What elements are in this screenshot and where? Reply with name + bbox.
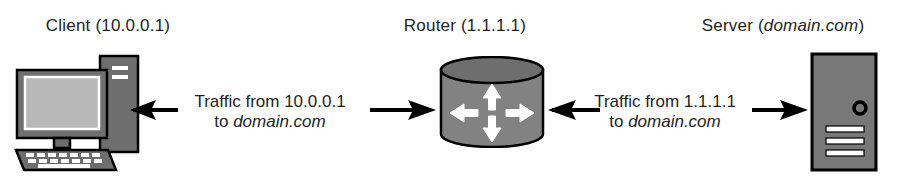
arrow-to-router-right [548,100,600,120]
arrow-to-router-left [370,100,436,120]
arrow-to-client [130,100,178,120]
arrow-connectors [0,0,905,180]
arrow-to-server [752,100,808,120]
network-diagram: Client (10.0.0.1) Router (1.1.1.1) Serve… [0,0,905,180]
